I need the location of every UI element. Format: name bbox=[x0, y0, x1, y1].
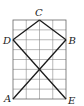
label-D: D bbox=[2, 35, 11, 46]
geometry-diagram: C D B A E bbox=[0, 0, 84, 106]
label-A: A bbox=[3, 93, 11, 104]
label-C: C bbox=[35, 7, 43, 18]
grid bbox=[13, 20, 66, 99]
label-B: B bbox=[68, 35, 76, 46]
label-E: E bbox=[67, 95, 76, 106]
